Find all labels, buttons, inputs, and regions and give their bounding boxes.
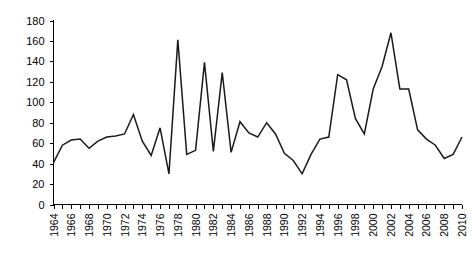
chart-canvas: 020406080100120140160180 196419661968197… — [0, 0, 472, 280]
x-axis-tick-label: 1978 — [172, 213, 184, 237]
x-axis-tick-label: 1992 — [296, 213, 308, 237]
y-axis-tick-labels: 020406080100120140160180 — [26, 15, 44, 211]
x-axis-tick-label: 2000 — [367, 213, 379, 237]
x-axis-tick-label: 2002 — [385, 213, 397, 237]
line-chart: 020406080100120140160180 196419661968197… — [0, 0, 472, 280]
y-axis-tick-label: 60 — [32, 137, 44, 149]
x-axis-tick-label: 2008 — [438, 213, 450, 237]
y-axis-tick-label: 100 — [26, 96, 44, 108]
x-axis-tick-label: 1982 — [207, 213, 219, 237]
x-axis-tick-label: 1996 — [332, 213, 344, 237]
x-axis-tick-label: 1998 — [349, 213, 361, 237]
x-axis-tick-label: 1970 — [101, 213, 113, 237]
y-axis-tick-label: 180 — [26, 15, 44, 27]
x-axis-tick-label: 2006 — [420, 213, 432, 237]
x-axis-tick-label: 1986 — [243, 213, 255, 237]
x-axis-tick-label: 1974 — [136, 213, 148, 237]
x-axis-tick-label: 1968 — [83, 213, 95, 237]
x-axis-tick-label: 1966 — [65, 213, 77, 237]
x-axis-tick-marks — [55, 205, 463, 209]
x-axis-tick-label: 1984 — [225, 213, 237, 237]
x-axis-tick-label: 2010 — [456, 213, 468, 237]
x-axis-tick-label: 1972 — [119, 213, 131, 237]
y-axis-tick-label: 120 — [26, 76, 44, 88]
x-axis-tick-labels: 1964196619681970197219741976197819801982… — [48, 213, 469, 237]
x-axis-tick-label: 1976 — [154, 213, 166, 237]
y-axis-tick-label: 0 — [38, 199, 44, 211]
y-axis-tick-label: 160 — [26, 35, 44, 47]
x-axis-tick-label: 1990 — [278, 213, 290, 237]
x-axis-tick-label: 1988 — [261, 213, 273, 237]
y-axis-tick-label: 140 — [26, 55, 44, 67]
x-axis-tick-label: 1980 — [190, 213, 202, 237]
y-axis-tick-marks — [50, 22, 54, 206]
y-axis-tick-label: 20 — [32, 178, 44, 190]
data-series-line — [54, 33, 463, 174]
x-axis-tick-label: 1994 — [314, 213, 326, 237]
x-axis-tick-label: 2004 — [403, 213, 415, 237]
y-axis-tick-label: 40 — [32, 158, 44, 170]
y-axis-tick-label: 80 — [32, 117, 44, 129]
x-axis-tick-label: 1964 — [48, 213, 60, 237]
